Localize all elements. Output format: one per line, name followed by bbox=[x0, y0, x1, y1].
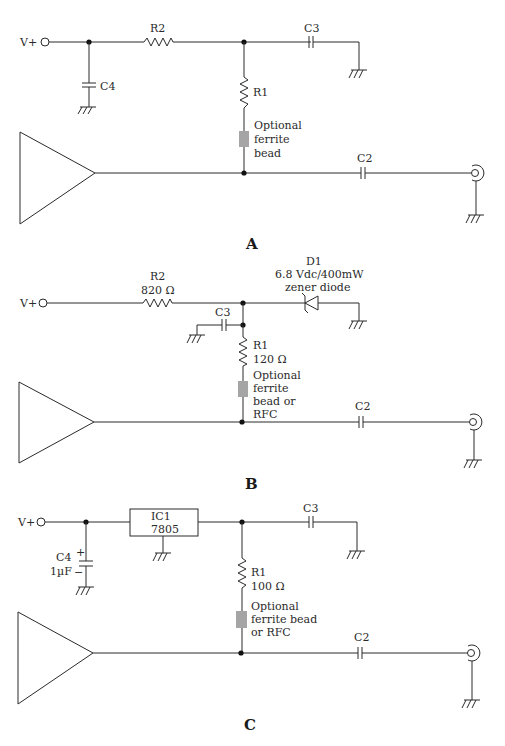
coax-connector-icon bbox=[468, 645, 480, 700]
amplifier-triangle-icon bbox=[20, 132, 95, 224]
capacitor-c2: C2 bbox=[355, 400, 469, 428]
coax-connector-icon bbox=[470, 414, 482, 460]
capacitor-c3: C3 bbox=[197, 306, 243, 335]
svg-text:IC1: IC1 bbox=[151, 510, 171, 523]
svg-text:C3: C3 bbox=[215, 306, 230, 319]
capacitor-c2: C2 bbox=[357, 152, 471, 179]
svg-text:R1: R1 bbox=[253, 339, 268, 352]
svg-text:C2: C2 bbox=[354, 631, 369, 644]
ground-icon bbox=[349, 70, 367, 78]
junction-dot bbox=[241, 170, 246, 175]
ferrite-note: Optional ferrite bead or RFC bbox=[251, 600, 321, 639]
resistor-r2: R2 820 Ω bbox=[141, 270, 175, 307]
supply-terminal-icon bbox=[39, 299, 47, 307]
coax-connector-icon bbox=[472, 165, 484, 215]
svg-text:6.8 Vdc/400mW: 6.8 Vdc/400mW bbox=[275, 268, 364, 281]
panel-label: B bbox=[245, 475, 258, 493]
svg-text:820 Ω: 820 Ω bbox=[141, 284, 175, 297]
ground-icon bbox=[347, 551, 365, 559]
ground-icon bbox=[187, 335, 205, 343]
ground-icon bbox=[76, 587, 94, 595]
panel-b: V+ R2 820 Ω D1 6.8 Vdc/400mW zener diode bbox=[19, 255, 482, 493]
resistor-r1: R1 bbox=[240, 42, 268, 131]
svg-text:C2: C2 bbox=[355, 400, 370, 413]
svg-text:C4: C4 bbox=[100, 80, 115, 93]
ground-icon bbox=[153, 553, 171, 561]
resistor-r2: R2 bbox=[144, 22, 173, 46]
ferrite-note: Optional ferrite bead or RFC bbox=[253, 369, 304, 421]
svg-text:1µF: 1µF bbox=[50, 565, 72, 578]
ground-icon bbox=[464, 460, 482, 468]
ferrite-note: Optional ferrite bead bbox=[254, 119, 305, 160]
ground-icon bbox=[466, 215, 484, 223]
resistor-r1: R1 100 Ω bbox=[238, 522, 285, 611]
svg-text:R2: R2 bbox=[150, 22, 165, 35]
svg-text:C2: C2 bbox=[357, 152, 372, 165]
regulator-ic1: IC1 7805 bbox=[130, 509, 198, 553]
panel-label: A bbox=[245, 235, 258, 253]
capacitor-c3: C3 bbox=[303, 502, 357, 551]
supply-terminal-icon bbox=[37, 518, 45, 526]
svg-text:R1: R1 bbox=[251, 566, 266, 579]
svg-text:D1: D1 bbox=[306, 255, 322, 268]
ferrite-bead-icon bbox=[238, 381, 248, 397]
panel-c: V+ C4 1µF + − IC1 7805 bbox=[17, 502, 480, 734]
ferrite-bead-icon bbox=[236, 611, 247, 628]
junction-dot bbox=[239, 419, 244, 424]
panel-label: C bbox=[244, 716, 256, 734]
svg-text:7805: 7805 bbox=[151, 523, 179, 536]
junction-dot bbox=[238, 650, 243, 655]
svg-text:−: − bbox=[74, 566, 83, 579]
supply-label: V+ bbox=[17, 516, 35, 529]
amplifier-triangle-icon bbox=[19, 382, 94, 463]
svg-text:C3: C3 bbox=[304, 22, 319, 35]
amplifier-triangle-icon bbox=[18, 612, 93, 704]
svg-text:120 Ω: 120 Ω bbox=[253, 353, 287, 366]
ground-icon bbox=[462, 700, 480, 708]
capacitor-c2: C2 bbox=[354, 631, 467, 659]
svg-text:+: + bbox=[76, 546, 85, 559]
zener-diode-d1: D1 6.8 Vdc/400mW zener diode bbox=[275, 255, 364, 321]
schematic-figure: V+ C4 R2 C3 bbox=[0, 0, 505, 746]
ground-icon bbox=[78, 107, 96, 114]
svg-text:R1: R1 bbox=[253, 86, 268, 99]
svg-text:C4: C4 bbox=[56, 551, 71, 564]
svg-text:100 Ω: 100 Ω bbox=[251, 580, 285, 593]
capacitor-c3: C3 bbox=[304, 22, 359, 70]
panel-a: V+ C4 R2 C3 bbox=[19, 22, 484, 253]
svg-text:C3: C3 bbox=[303, 502, 318, 515]
svg-text:R2: R2 bbox=[150, 270, 165, 283]
ferrite-bead-icon bbox=[239, 131, 249, 147]
supply-label: V+ bbox=[19, 297, 37, 310]
supply-terminal-icon bbox=[41, 38, 49, 46]
svg-text:zener diode: zener diode bbox=[285, 281, 350, 294]
supply-label: V+ bbox=[19, 36, 37, 49]
ground-icon bbox=[349, 321, 367, 329]
capacitor-c4: C4 bbox=[82, 42, 115, 107]
capacitor-c4: C4 1µF + − bbox=[50, 522, 93, 587]
